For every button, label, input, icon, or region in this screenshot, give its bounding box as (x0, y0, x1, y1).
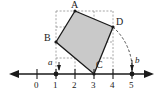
axis-arrow-right (144, 70, 154, 78)
point-b-dot (130, 72, 135, 77)
pointer-b-head (130, 65, 134, 71)
tick-label-4: 4 (110, 81, 115, 90)
vertex-label-C: C (96, 60, 103, 70)
marked-label-b: b (135, 56, 140, 65)
tick-label-3: 3 (91, 81, 96, 90)
figure-canvas (0, 0, 158, 97)
tick-label-2: 2 (72, 81, 77, 90)
vertex-label-D: D (116, 17, 123, 27)
point-a-dot (54, 72, 59, 77)
vertex-B-dot (54, 40, 57, 43)
dashed-arc-D-to-b (113, 27, 132, 74)
tick-label-0: 0 (34, 81, 39, 90)
vertex-D-dot (111, 25, 114, 28)
tick-label-1: 1 (53, 81, 58, 90)
pointer-a-head (57, 65, 61, 71)
tick-label-5: 5 (129, 81, 134, 90)
marked-label-a: a (48, 58, 53, 67)
vertex-label-A: A (71, 0, 78, 10)
vertex-label-B: B (44, 33, 51, 43)
axis-arrow-left (9, 70, 19, 78)
tilted-square (56, 11, 113, 74)
geometry-figure: A B C D a b 0 1 2 3 4 5 (0, 0, 158, 97)
vertex-C-dot (92, 72, 95, 75)
